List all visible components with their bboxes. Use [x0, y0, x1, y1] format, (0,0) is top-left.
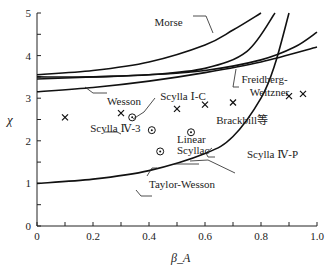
axes: 00.20.40.60.81.0012345	[26, 7, 325, 242]
annotation-label: Weitzner	[250, 86, 290, 98]
leader-line	[193, 16, 213, 33]
x-tick-label: 0	[34, 230, 40, 242]
curve-morse	[37, 13, 261, 75]
y-tick-label: 1	[26, 177, 32, 189]
x-marker	[62, 114, 68, 120]
x-marker	[230, 99, 236, 105]
labels: MorseFreidberg-WeitznerWessonScylla Ⅰ-CB…	[90, 16, 298, 190]
leader-line	[233, 69, 239, 87]
x-tick-label: 0.6	[198, 230, 212, 242]
x-tick-label: 0.8	[254, 230, 268, 242]
annotation-label: Scylla Ⅰ-C	[160, 90, 206, 102]
circle-dot-marker	[129, 114, 136, 121]
x-marker	[202, 102, 208, 108]
annotation-label: Scyllac	[177, 144, 209, 156]
circle-dot-marker	[157, 148, 164, 155]
annotation-label: Wesson	[107, 95, 141, 107]
x-tick-label: 1.0	[310, 230, 324, 242]
annotation-label: Scylla Ⅳ-3	[90, 122, 141, 134]
annotation-label: Scylla Ⅳ-P	[247, 148, 298, 160]
x-tick-label: 0.2	[86, 230, 100, 242]
circle-dot-marker	[148, 127, 155, 134]
y-tick-label: 0	[26, 220, 32, 232]
x-marker	[118, 110, 124, 116]
x-tick-label: 0.4	[142, 230, 156, 242]
leader-line	[136, 190, 152, 196]
y-tick-label: 4	[26, 50, 32, 62]
x-axis-label: β_A	[170, 251, 191, 265]
y-tick-label: 3	[26, 92, 32, 104]
x-marker	[300, 91, 306, 97]
leader-line	[190, 160, 235, 173]
annotation-label: Freidberg-	[241, 73, 288, 85]
annotation-label: Brackbill等	[216, 113, 268, 126]
annotation-label: Taylor-Wesson	[149, 178, 215, 190]
x-marker	[174, 106, 180, 112]
y-tick-label: 5	[26, 7, 32, 19]
y-axis-label: χ	[5, 112, 13, 127]
chart: 00.20.40.60.81.0012345 MorseFreidberg-We…	[0, 0, 329, 268]
annotation-label: Morse	[155, 16, 183, 28]
y-tick-label: 2	[26, 135, 32, 147]
